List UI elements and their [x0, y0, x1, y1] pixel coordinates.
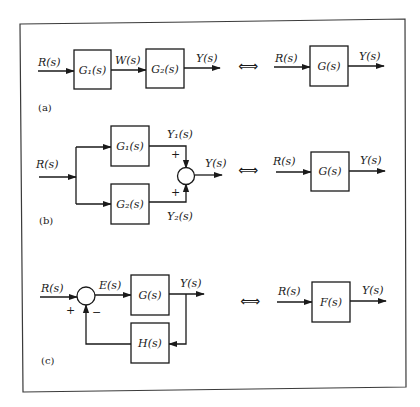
panel-c-right-input-label: R(s) — [277, 285, 301, 298]
panel-b-equivalence-icon: ⟺ — [238, 162, 258, 178]
panel-b-output-label: Y(s) — [205, 157, 227, 170]
panel-a-series: R(s) G₁(s) W(s) G₂(s) Y(s) (a) ⟺ R(s) G(… — [37, 46, 384, 113]
panel-c-output-label: Y(s) — [180, 277, 202, 290]
panel-a-input-label: R(s) — [37, 56, 61, 69]
panel-b-block-g2-label: G₂(s) — [116, 198, 143, 211]
panel-c-block-h-label: H(s) — [137, 337, 162, 350]
panel-c-feedback-path-in — [169, 294, 186, 344]
panel-b-y2-label: Y₂(s) — [167, 210, 193, 223]
panel-c-sign-minus: − — [92, 306, 101, 319]
panel-b-y1-label: Y₁(s) — [167, 128, 193, 141]
block-diagram-figure: R(s) G₁(s) W(s) G₂(s) Y(s) (a) ⟺ R(s) G(… — [0, 0, 420, 407]
panel-b-y1-arrow — [149, 146, 186, 168]
panel-c-equivalence-icon: ⟺ — [240, 293, 260, 309]
panel-b-right-input-label: R(s) — [272, 155, 296, 168]
panel-a-block-g2-label: G₂(s) — [151, 63, 178, 76]
panel-a-block-g1-label: G₁(s) — [79, 64, 106, 77]
panel-b-right-block-label: G(s) — [318, 165, 341, 178]
panel-b-y2-arrow — [149, 184, 186, 202]
panel-a-tag: (a) — [38, 102, 52, 113]
panel-a-intermediate-label: W(s) — [115, 54, 141, 67]
panel-c-feedback: R(s) + − E(s) G(s) Y(s) H(s) (c) ⟺ R(s) … — [40, 275, 386, 366]
panel-a-right-block-label: G(s) — [317, 60, 340, 73]
panel-c-right-block-label: F(s) — [319, 296, 342, 309]
panel-b-input-label: R(s) — [35, 158, 59, 171]
panel-a-right-output-label: Y(s) — [359, 50, 381, 63]
panel-c-tag: (c) — [41, 355, 55, 366]
panel-a-right-input-label: R(s) — [274, 52, 298, 65]
panel-b-summing-junction — [178, 168, 195, 185]
panel-c-block-g-label: G(s) — [138, 289, 161, 302]
panel-a-output-label: Y(s) — [196, 52, 218, 65]
panel-c-summing-junction — [77, 287, 95, 305]
panel-b-right-output-label: Y(s) — [360, 154, 382, 167]
panel-b-block-g1-label: G₁(s) — [116, 140, 143, 153]
panel-c-right-output-label: Y(s) — [362, 284, 384, 297]
panel-b-parallel: R(s) G₁(s) G₂(s) Y₁(s) + + Y₂(s) Y(s) (b… — [35, 126, 385, 226]
panel-b-sign-lower: + — [171, 186, 180, 199]
panel-c-error-label: E(s) — [98, 279, 121, 292]
panel-a-equivalence-icon: ⟺ — [238, 58, 258, 74]
panel-c-sign-plus: + — [66, 304, 75, 317]
panel-b-tag: (b) — [39, 215, 53, 226]
panel-c-input-label: R(s) — [40, 282, 64, 295]
panel-b-sign-upper: + — [171, 148, 180, 161]
